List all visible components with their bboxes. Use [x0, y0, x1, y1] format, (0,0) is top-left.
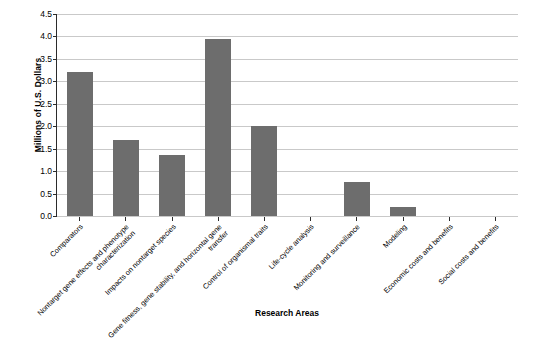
bar [205, 39, 231, 216]
bar-slot [380, 14, 426, 216]
bar-slot [103, 14, 149, 216]
bar [113, 140, 139, 216]
y-tick-label: 1.0 [40, 166, 52, 176]
bar-slot [426, 14, 472, 216]
y-tick-label: 2.5 [40, 99, 52, 109]
y-tick-label: 4.5 [40, 9, 52, 19]
bar-slot [241, 14, 287, 216]
bar-slot [57, 14, 103, 216]
bar-series [57, 14, 518, 216]
y-tick-label: 3.5 [40, 54, 52, 64]
x-axis-tick-labels: ComparatorsNontarget gene effects and ph… [56, 221, 518, 303]
bar-slot [472, 14, 518, 216]
bar [344, 182, 370, 216]
x-axis-title: Research Areas [56, 308, 518, 318]
bar [390, 207, 416, 216]
y-tick-label: 0.0 [40, 211, 52, 221]
y-tick-label: 0.5 [40, 189, 52, 199]
y-tick-label: 4.0 [40, 31, 52, 41]
bar [159, 155, 185, 216]
bar-slot [334, 14, 380, 216]
bar [67, 72, 93, 216]
bar-slot [287, 14, 333, 216]
bar-slot [195, 14, 241, 216]
y-tick-label: 1.5 [40, 144, 52, 154]
plot-area: 0.00.51.01.52.02.53.03.54.04.5 [56, 14, 518, 217]
bar-slot [149, 14, 195, 216]
bar [251, 126, 277, 216]
y-tick-label: 3.0 [40, 76, 52, 86]
y-tick-label: 2.0 [40, 121, 52, 131]
x-label-slot: Social costs and benefits [472, 221, 518, 303]
